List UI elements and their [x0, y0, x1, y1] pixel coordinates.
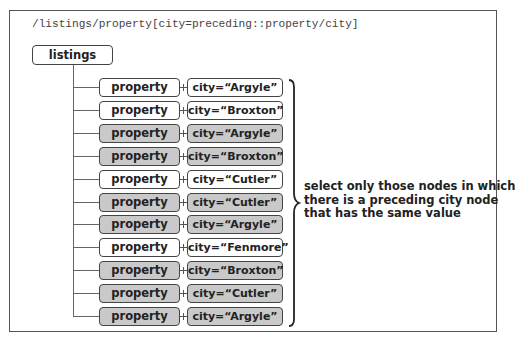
attribute-connector-tick — [183, 84, 184, 91]
attribute-connector-tick — [183, 176, 184, 183]
annotation-text: select only those nodes in which there i… — [304, 180, 515, 221]
branch-line — [73, 224, 99, 225]
branch-line — [73, 179, 99, 180]
annotation-line: select only those nodes in which — [304, 180, 515, 194]
property-node-selected: property — [99, 261, 180, 280]
city-attribute-selected: city=“Cutler” — [187, 284, 283, 303]
attribute-connector-tick — [183, 221, 184, 228]
city-attribute-selected: city=“Argyle” — [187, 307, 283, 326]
property-node: property — [99, 78, 180, 97]
attribute-connector-tick — [183, 244, 184, 251]
attribute-connector-tick — [183, 199, 184, 206]
tree-trunk-line — [73, 65, 74, 317]
property-node-selected: property — [99, 147, 180, 166]
property-node-selected: property — [99, 193, 180, 212]
city-attribute-selected: city=“Argyle” — [187, 215, 283, 234]
property-node-selected: property — [99, 307, 180, 326]
city-attribute: city=“Broxton” — [187, 101, 283, 120]
branch-line — [73, 247, 99, 248]
city-attribute-selected: city=“Broxton” — [187, 147, 283, 166]
property-node-selected: property — [99, 215, 180, 234]
root-node-listings: listings — [32, 45, 113, 65]
xpath-expression: /listings/property[city=preceding::prope… — [32, 18, 359, 30]
city-attribute: city=“Fenmore” — [187, 238, 283, 257]
annotation-line: there is a preceding city node — [304, 194, 515, 208]
branch-line — [73, 270, 99, 271]
attribute-connector-tick — [183, 107, 184, 114]
city-attribute-selected: city=“Argyle” — [187, 124, 283, 143]
city-attribute: city=“Argyle” — [187, 78, 283, 97]
branch-line — [73, 156, 99, 157]
city-attribute: city=“Cutler” — [187, 170, 283, 189]
branch-line — [73, 202, 99, 203]
attribute-connector-tick — [183, 153, 184, 160]
branch-line — [73, 110, 99, 111]
branch-line — [73, 87, 99, 88]
branch-line — [73, 316, 99, 317]
property-node-selected: property — [99, 284, 180, 303]
property-node: property — [99, 101, 180, 120]
attribute-connector-tick — [183, 313, 184, 320]
branch-line — [73, 293, 99, 294]
annotation-line: that has the same value — [304, 207, 515, 221]
property-node: property — [99, 170, 180, 189]
branch-line — [73, 133, 99, 134]
property-node: property — [99, 238, 180, 257]
right-brace-icon — [287, 79, 301, 327]
attribute-connector-tick — [183, 267, 184, 274]
city-attribute-selected: city=“Broxton” — [187, 261, 283, 280]
attribute-connector-tick — [183, 130, 184, 137]
property-node-selected: property — [99, 124, 180, 143]
city-attribute-selected: city=“Cutler” — [187, 193, 283, 212]
attribute-connector-tick — [183, 290, 184, 297]
